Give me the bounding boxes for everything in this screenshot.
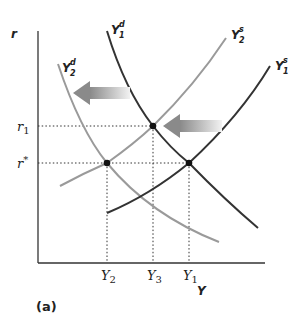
svg-text:1: 1 [119,31,125,40]
supply-shift-arrow [163,114,222,138]
curve-label-Y1d: Y d 1 [111,20,125,40]
equilibrium-point-r-star-Y2 [104,160,111,167]
tick-label-Y2: Y2 [101,268,116,285]
svg-text:1: 1 [283,67,289,76]
x-axis-label: Y [197,284,207,298]
tick-label-r-star: r* [17,154,28,171]
equilibrium-point-r1-Y3 [150,123,157,130]
tick-label-r1: r1 [17,119,30,136]
equilibrium-point-r-star-Y1 [186,160,193,167]
macro-diagram: r Y r1 r* Y2 Y3 Y1 Y d [0,0,303,327]
svg-text:d: d [119,20,125,29]
svg-text:2: 2 [239,36,245,45]
svg-text:2: 2 [70,69,76,78]
figure-caption: (a) [36,299,57,314]
curve-label-Y2d: Y d 2 [62,58,76,78]
svg-text:s: s [283,56,288,65]
curve-label-Y1s: Y s 1 [275,56,289,76]
guide-lines [38,126,189,263]
y-axis-label: r [11,27,18,41]
svg-text:s: s [239,25,244,34]
svg-text:d: d [70,58,76,67]
demand-shift-arrow [73,81,130,105]
tick-label-Y1: Y1 [183,268,198,285]
tick-label-Y3: Y3 [147,268,162,285]
curve-label-Y2s: Y s 2 [231,25,245,45]
